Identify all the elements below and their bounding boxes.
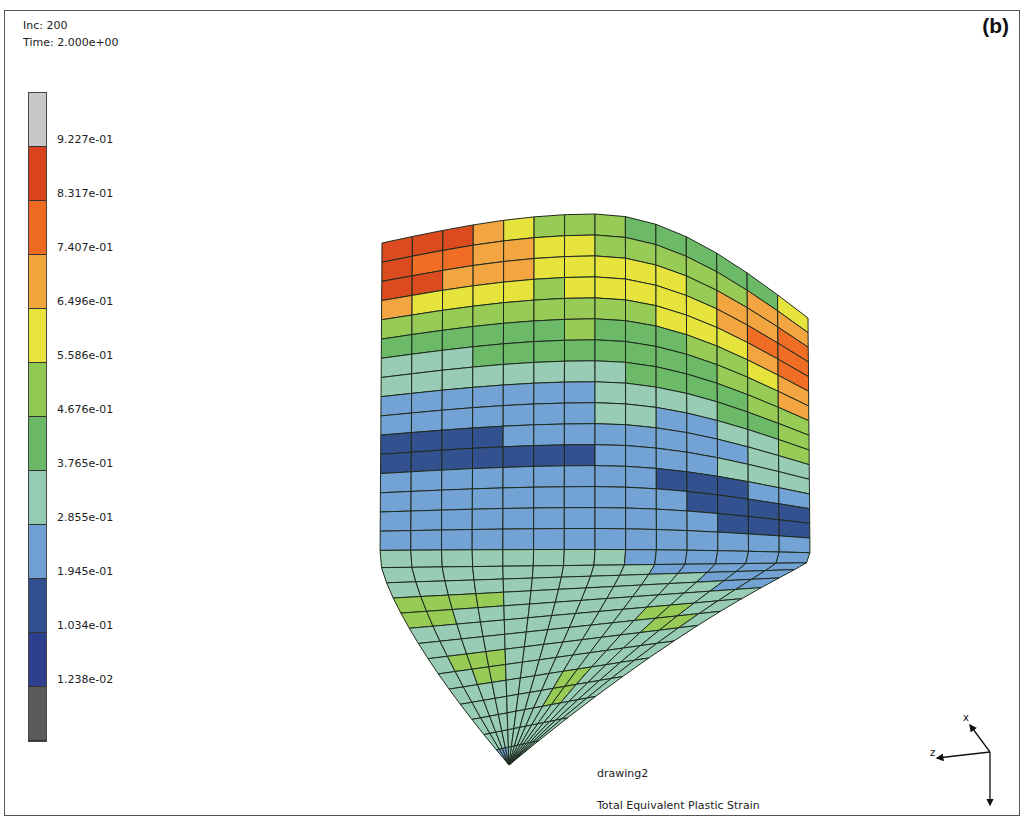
mesh-element bbox=[411, 490, 442, 511]
mesh-element bbox=[561, 565, 594, 577]
mesh-element bbox=[503, 362, 534, 385]
mesh-element bbox=[564, 403, 595, 424]
svg-text:x: x bbox=[963, 712, 969, 723]
mesh-element bbox=[656, 468, 687, 491]
mesh-element bbox=[656, 448, 687, 472]
mesh-element bbox=[626, 529, 657, 550]
mesh-element bbox=[718, 514, 749, 534]
mesh-element bbox=[442, 387, 473, 410]
mesh-element bbox=[412, 390, 443, 413]
mesh-element bbox=[595, 319, 626, 342]
mesh-element bbox=[442, 489, 473, 510]
mesh-element bbox=[473, 566, 504, 580]
mesh-element bbox=[595, 403, 626, 425]
mesh-element bbox=[412, 370, 443, 393]
mesh-element bbox=[595, 424, 626, 446]
mesh-element bbox=[565, 277, 596, 299]
mesh-element bbox=[595, 298, 626, 321]
mesh-element bbox=[564, 550, 595, 566]
mesh-element bbox=[534, 487, 565, 508]
mesh-element bbox=[534, 508, 565, 529]
mesh-element bbox=[595, 340, 626, 363]
mesh-element bbox=[534, 278, 565, 301]
mesh-element bbox=[412, 567, 445, 582]
mesh-element bbox=[473, 426, 504, 448]
mesh-element bbox=[473, 282, 504, 306]
mesh-element bbox=[564, 508, 595, 529]
mesh-element bbox=[595, 487, 626, 508]
mesh-element bbox=[504, 259, 534, 283]
mesh-element bbox=[381, 393, 412, 416]
mesh-element bbox=[473, 447, 504, 469]
mesh-element bbox=[595, 235, 626, 258]
mesh-element bbox=[473, 364, 504, 387]
mesh-element bbox=[411, 470, 442, 491]
mesh-element bbox=[504, 217, 534, 241]
mesh-element bbox=[503, 529, 534, 550]
mesh-element bbox=[559, 576, 591, 589]
mesh-element bbox=[472, 529, 503, 550]
mesh-element bbox=[442, 448, 473, 470]
mesh-element bbox=[595, 445, 626, 467]
mesh-element bbox=[595, 361, 626, 383]
mesh-element bbox=[595, 256, 626, 279]
mesh-element bbox=[564, 529, 595, 550]
mesh-element bbox=[472, 509, 503, 530]
mesh-element bbox=[472, 488, 503, 509]
model-name: drawing2 bbox=[597, 767, 648, 780]
mesh-element bbox=[565, 340, 596, 361]
mesh-element bbox=[481, 620, 505, 637]
mesh-element bbox=[503, 383, 534, 405]
mesh-element bbox=[503, 425, 534, 447]
mesh-element bbox=[486, 649, 506, 667]
mesh-element bbox=[452, 608, 480, 624]
mesh-element bbox=[442, 469, 473, 491]
mesh-element bbox=[626, 487, 657, 509]
mesh-element bbox=[534, 424, 565, 446]
mesh-element bbox=[565, 298, 596, 320]
mesh-element bbox=[503, 578, 532, 592]
mesh-element bbox=[534, 466, 565, 487]
mesh-element bbox=[503, 404, 534, 426]
mesh-element bbox=[626, 508, 657, 530]
mesh-element bbox=[416, 581, 449, 597]
mesh-element bbox=[715, 551, 748, 564]
mesh-element bbox=[503, 466, 534, 488]
mesh-element bbox=[594, 550, 626, 566]
mesh-element bbox=[473, 385, 504, 408]
mesh-element bbox=[595, 382, 626, 404]
mesh-element bbox=[534, 529, 565, 550]
mesh-element bbox=[442, 428, 473, 450]
mesh-element bbox=[448, 594, 478, 610]
axis-triad-icon: x z bbox=[925, 705, 1015, 815]
mesh-element bbox=[411, 450, 442, 472]
mesh-element bbox=[624, 550, 656, 565]
mesh-element bbox=[564, 466, 595, 487]
mesh-element bbox=[564, 382, 595, 403]
mesh-element bbox=[595, 214, 625, 237]
variable-name: Total Equivalent Plastic Strain bbox=[597, 799, 760, 812]
mesh-element bbox=[687, 531, 718, 551]
mesh-element bbox=[591, 565, 625, 576]
mesh-element bbox=[472, 550, 503, 567]
mesh-element bbox=[476, 592, 504, 608]
mesh-element bbox=[504, 300, 535, 323]
mesh-element bbox=[533, 550, 564, 566]
mesh-element bbox=[472, 467, 503, 489]
mesh-element bbox=[626, 446, 657, 469]
mesh-element bbox=[380, 472, 411, 493]
mesh-element bbox=[655, 550, 687, 565]
mesh-element bbox=[534, 445, 565, 467]
mesh-element bbox=[687, 511, 718, 532]
mesh-element bbox=[421, 595, 453, 611]
mesh-element bbox=[380, 550, 412, 567]
mesh-element bbox=[595, 277, 626, 300]
mesh-element bbox=[656, 530, 687, 551]
mesh-element bbox=[411, 430, 442, 452]
mesh-element bbox=[442, 367, 473, 390]
mesh-element bbox=[534, 319, 565, 341]
mesh-element bbox=[748, 534, 779, 552]
mesh-element bbox=[442, 530, 473, 551]
mesh-element bbox=[381, 433, 412, 455]
mesh-element bbox=[534, 257, 565, 280]
